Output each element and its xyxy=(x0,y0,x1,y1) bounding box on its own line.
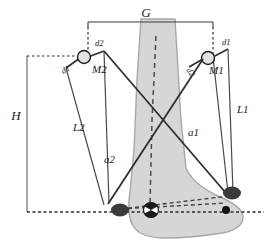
right-linkage: M1 d1 d2 L1 xyxy=(184,37,248,193)
motor-M1-joint xyxy=(202,52,215,65)
d1-segment-right xyxy=(213,49,228,57)
heel-joint-marker xyxy=(111,204,129,217)
label-M2: M2 xyxy=(91,63,107,75)
toe-joint-marker xyxy=(223,187,241,200)
label-d1-right: d1 xyxy=(222,37,231,47)
label-H: H xyxy=(10,108,21,123)
label-L2: L2 xyxy=(72,121,85,133)
kinematic-diagram-svg: G H M2 d2 d1 L2 M1 d1 d2 L1 a1 a2 xyxy=(0,0,274,246)
forefoot-point-marker xyxy=(222,206,230,214)
label-a1: a1 xyxy=(188,126,199,138)
label-G: G xyxy=(141,5,151,20)
left-linkage: M2 d2 d1 L2 xyxy=(59,38,109,205)
label-L1: L1 xyxy=(236,103,249,115)
diagram-root: G H M2 d2 d1 L2 M1 d1 d2 L1 a1 a2 xyxy=(0,0,274,246)
L1-link-outer xyxy=(228,49,233,193)
L1-link-inner xyxy=(213,57,228,193)
label-M1: M1 xyxy=(208,64,224,76)
label-d2-left: d2 xyxy=(95,38,104,48)
L2-link-outer xyxy=(66,68,104,205)
ankle-center-marker xyxy=(144,202,159,217)
motor-M2-joint xyxy=(78,51,91,64)
label-a2: a2 xyxy=(104,153,116,165)
